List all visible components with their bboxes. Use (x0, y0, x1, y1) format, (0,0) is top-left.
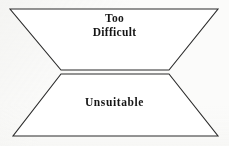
diagram-canvas: Too Difficult Unsuitable (0, 0, 229, 146)
too-difficult-region-shape (10, 9, 218, 70)
hourglass-shape (0, 0, 229, 146)
unsuitable-region-shape (13, 74, 218, 136)
